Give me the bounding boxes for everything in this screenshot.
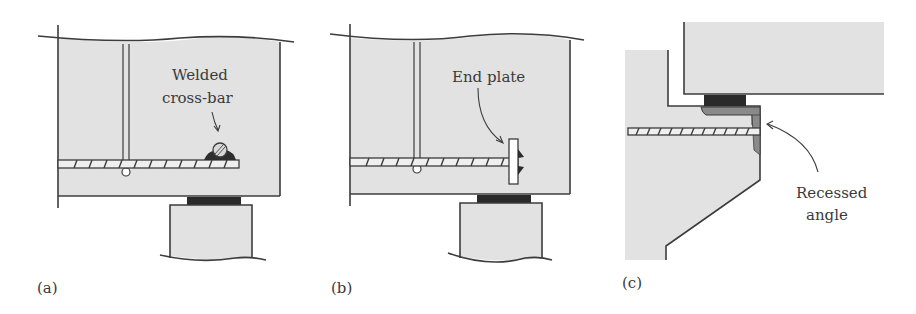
label-cross-bar: cross-bar: [162, 89, 234, 107]
label-angle: angle: [806, 206, 848, 224]
cross-bar-a: [213, 143, 227, 157]
label-welded: Welded: [172, 66, 228, 84]
label-end-plate: End plate: [452, 68, 525, 86]
column-b: [460, 203, 542, 261]
supported-beam-c: [684, 22, 884, 94]
caption-a: (a): [37, 279, 58, 297]
leader-arrow-c: [768, 124, 818, 172]
bearing-pad-b: [477, 195, 531, 203]
beam-concrete-b: [350, 35, 570, 194]
beam-concrete-a: [58, 38, 280, 197]
panel-a: Welded cross-bar (a): [37, 25, 294, 297]
caption-c: (c): [622, 274, 642, 292]
label-recessed: Recessed: [796, 184, 868, 202]
bearing-pad-a: [187, 197, 241, 205]
column-a: [170, 205, 252, 260]
end-plate-b: [509, 139, 518, 184]
bearing-pad-c: [704, 95, 746, 106]
anchorage-details-diagram: Welded cross-bar (a) End plate (b): [0, 0, 916, 314]
panel-c: Recessed angle (c): [622, 22, 884, 292]
main-rebar-b: [350, 158, 518, 166]
caption-b: (b): [331, 279, 352, 297]
stirrup-bar-section-a: [122, 168, 130, 176]
panel-b: End plate (b): [330, 24, 584, 297]
